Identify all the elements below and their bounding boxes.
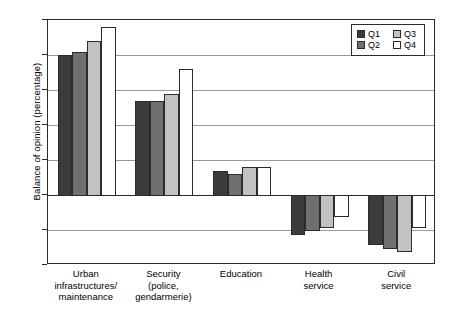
legend-label-q4: Q4: [404, 40, 419, 51]
bar: [150, 101, 165, 197]
bar: [368, 195, 383, 245]
bar: [101, 27, 116, 196]
bar: [242, 167, 257, 196]
bar: [334, 195, 349, 217]
bar: [383, 195, 398, 249]
legend-table: Q1Q3Q2Q4: [357, 29, 419, 51]
x-category-label: Civil service: [336, 268, 450, 291]
bar: [412, 195, 427, 228]
bar: [397, 195, 412, 252]
legend-column-gap: [383, 40, 393, 51]
bar: [213, 171, 228, 197]
bar: [164, 94, 179, 197]
bar-chart-figure: Balance of opinion (percentage) 50403020…: [0, 0, 450, 325]
bar: [179, 69, 194, 196]
legend-swatch-q4: [393, 41, 401, 49]
legend-swatch-q3: [393, 30, 401, 38]
y-axis-title: Balance of opinion (percentage): [31, 12, 42, 252]
legend-swatch-cell: [393, 29, 404, 40]
legend-label-q3: Q3: [404, 29, 419, 40]
legend-label-q1: Q1: [368, 29, 383, 40]
bar: [228, 174, 243, 196]
legend-swatch-q2: [357, 41, 365, 49]
legend-row: Q2Q4: [357, 40, 419, 51]
legend-row: Q1Q3: [357, 29, 419, 40]
bar: [291, 195, 306, 235]
legend-swatch-cell: [357, 40, 368, 51]
bar: [58, 55, 73, 196]
bar: [135, 101, 150, 197]
legend-swatch-cell: [357, 29, 368, 40]
legend-swatch-cell: [393, 40, 404, 51]
legend: Q1Q3Q2Q4: [351, 24, 425, 56]
bar: [72, 52, 87, 197]
legend-label-q2: Q2: [368, 40, 383, 51]
legend-swatch-q1: [357, 30, 365, 38]
bar: [87, 41, 102, 196]
bar: [257, 167, 272, 196]
bar: [320, 195, 335, 228]
legend-column-gap: [383, 29, 393, 40]
bar: [305, 195, 320, 231]
